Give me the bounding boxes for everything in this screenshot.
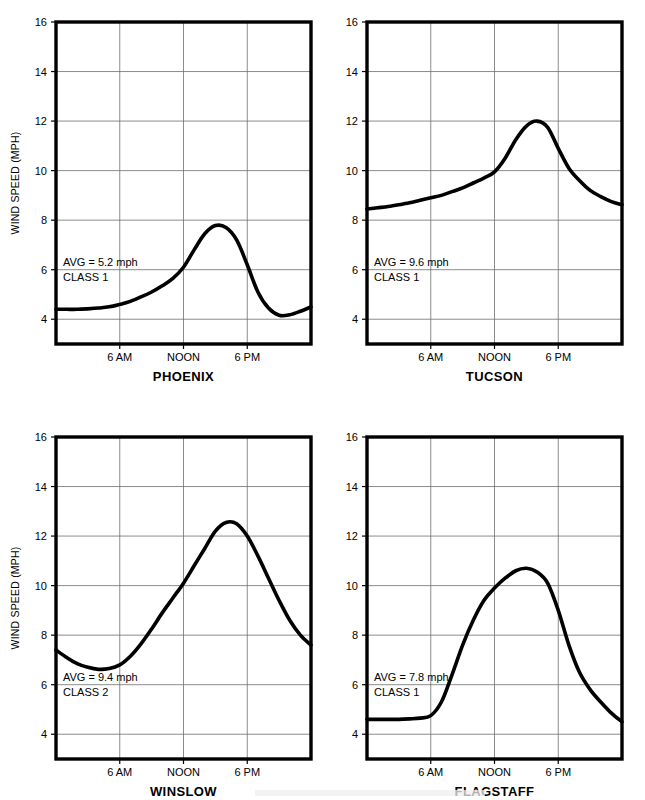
- annotation-class: CLASS 2: [63, 686, 108, 698]
- y-tick-label: 14: [35, 481, 47, 493]
- chart-panel-phoenix: 468101214166 AMNOON6 PMAVG = 5.2 mphCLAS…: [0, 0, 320, 400]
- annotation-class: CLASS 1: [63, 271, 108, 283]
- y-tick-label: 8: [352, 629, 358, 641]
- y-tick-label: 10: [346, 580, 358, 592]
- annotation-average: AVG = 5.2 mph: [63, 256, 138, 268]
- panel-title: WINSLOW: [150, 784, 217, 799]
- y-tick-label: 4: [352, 313, 358, 325]
- scan-artifact: [255, 790, 485, 796]
- y-tick-label: 4: [41, 313, 47, 325]
- annotation-average: AVG = 9.6 mph: [374, 256, 449, 268]
- y-tick-label: 12: [346, 115, 358, 127]
- x-tick-label: NOON: [478, 351, 511, 363]
- panel-title: PHOENIX: [153, 369, 214, 384]
- x-tick-label: 6 AM: [418, 766, 443, 778]
- annotation-class: CLASS 1: [374, 271, 419, 283]
- x-tick-label: NOON: [167, 351, 200, 363]
- y-tick-label: 6: [352, 264, 358, 276]
- y-tick-label: 16: [346, 16, 358, 28]
- chart-svg: 468101214166 AMNOON6 PMAVG = 7.8 mphCLAS…: [311, 415, 631, 800]
- y-tick-label: 10: [35, 580, 47, 592]
- y-tick-label: 8: [41, 629, 47, 641]
- chart-svg: 468101214166 AMNOON6 PMAVG = 9.4 mphCLAS…: [0, 415, 320, 800]
- y-tick-label: 12: [346, 530, 358, 542]
- y-tick-label: 8: [352, 214, 358, 226]
- x-tick-label: 6 AM: [107, 766, 132, 778]
- y-tick-label: 12: [35, 115, 47, 127]
- x-tick-label: 6 PM: [545, 351, 571, 363]
- x-tick-label: NOON: [167, 766, 200, 778]
- y-tick-label: 16: [35, 16, 47, 28]
- x-tick-label: 6 PM: [234, 766, 260, 778]
- chart-svg: 468101214166 AMNOON6 PMAVG = 9.6 mphCLAS…: [311, 0, 631, 400]
- x-tick-label: 6 AM: [107, 351, 132, 363]
- y-tick-label: 8: [41, 214, 47, 226]
- y-tick-label: 10: [346, 165, 358, 177]
- y-tick-label: 12: [35, 530, 47, 542]
- y-tick-label: 6: [41, 679, 47, 691]
- y-tick-label: 6: [41, 264, 47, 276]
- annotation-average: AVG = 9.4 mph: [63, 671, 138, 683]
- figure-canvas: 468101214166 AMNOON6 PMAVG = 5.2 mphCLAS…: [0, 0, 645, 800]
- y-tick-label: 16: [346, 431, 358, 443]
- y-axis-title: WIND SPEED (MPH): [9, 547, 21, 650]
- chart-svg: 468101214166 AMNOON6 PMAVG = 5.2 mphCLAS…: [0, 0, 320, 400]
- y-tick-label: 10: [35, 165, 47, 177]
- y-tick-label: 16: [35, 431, 47, 443]
- chart-panel-tucson: 468101214166 AMNOON6 PMAVG = 9.6 mphCLAS…: [311, 0, 631, 400]
- x-tick-label: 6 PM: [234, 351, 260, 363]
- y-axis-title: WIND SPEED (MPH): [9, 132, 21, 235]
- y-tick-label: 14: [346, 481, 358, 493]
- annotation-class: CLASS 1: [374, 686, 419, 698]
- y-tick-label: 4: [352, 728, 358, 740]
- y-tick-label: 14: [346, 66, 358, 78]
- panel-title: TUCSON: [466, 369, 523, 384]
- y-tick-label: 14: [35, 66, 47, 78]
- annotation-average: AVG = 7.8 mph: [374, 671, 449, 683]
- chart-panel-winslow: 468101214166 AMNOON6 PMAVG = 9.4 mphCLAS…: [0, 415, 320, 800]
- chart-panel-flagstaff: 468101214166 AMNOON6 PMAVG = 7.8 mphCLAS…: [311, 415, 631, 800]
- x-tick-label: 6 PM: [545, 766, 571, 778]
- y-tick-label: 4: [41, 728, 47, 740]
- x-tick-label: 6 AM: [418, 351, 443, 363]
- y-tick-label: 6: [352, 679, 358, 691]
- x-tick-label: NOON: [478, 766, 511, 778]
